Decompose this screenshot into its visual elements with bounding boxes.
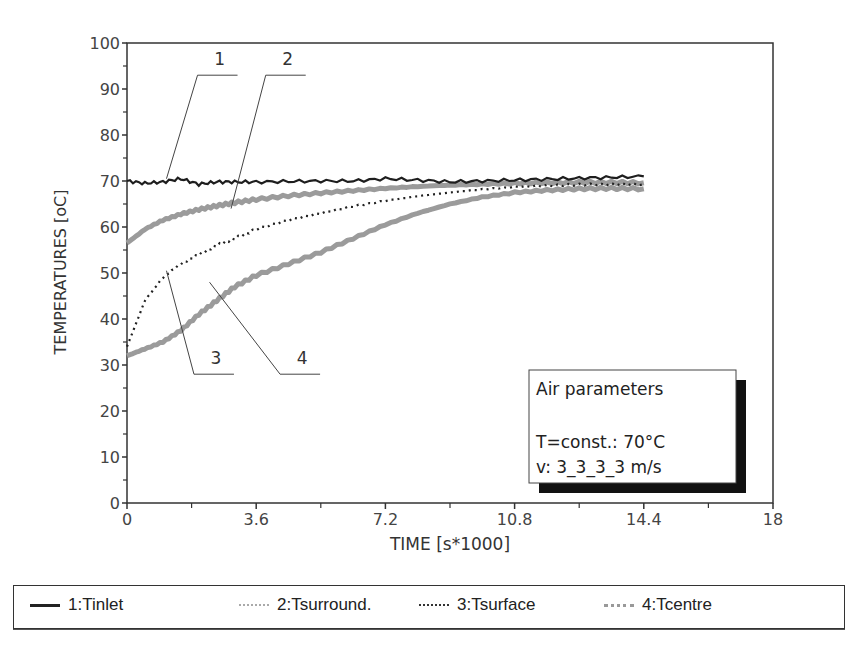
legend-swatch-gray-dotted — [239, 604, 269, 606]
legend-item-tcentre: 4:Tcentre — [604, 595, 712, 615]
x-tick-label: 10.8 — [497, 510, 533, 529]
x-axis-label: TIME [s*1000] — [389, 534, 510, 554]
legend-item-tinlet: 1:Tinlet — [30, 595, 123, 615]
info-box-title: Air parameters — [536, 379, 663, 399]
series-layer — [127, 175, 644, 355]
info-box-line: v: 3_3_3_3 m/s — [536, 457, 662, 478]
y-tick-label: 20 — [100, 402, 120, 421]
legend-swatch-gray-thick — [604, 604, 634, 607]
x-tick-label: 0 — [122, 510, 132, 529]
y-tick-label: 60 — [100, 218, 120, 237]
y-tick-label: 100 — [89, 34, 120, 53]
info-box-line: T=const.: 70°C — [535, 432, 665, 452]
y-tick-label: 0 — [110, 494, 120, 513]
y-tick-label: 30 — [100, 356, 120, 375]
annotation-label: 1 — [214, 49, 225, 69]
legend-label: 1:Tinlet — [68, 595, 123, 615]
x-tick-label: 18 — [763, 510, 783, 529]
y-tick-label: 70 — [100, 172, 120, 191]
legend-item-tsurround: 2:Tsurround. — [239, 595, 372, 615]
y-tick-label: 40 — [100, 310, 120, 329]
y-tick-label: 90 — [100, 80, 120, 99]
annotation-label: 3 — [211, 348, 222, 368]
air-parameters-box: Air parametersT=const.: 70°Cv: 3_3_3_3 m… — [529, 370, 746, 493]
y-axis-label: TEMPERATURES [oC] — [51, 189, 70, 355]
annotation-leader — [231, 75, 306, 208]
annotation-leader — [166, 75, 237, 179]
x-tick-label: 3.6 — [243, 510, 268, 529]
x-axis: 03.67.210.814.418 — [122, 503, 783, 529]
legend-label: 2:Tsurround. — [277, 595, 372, 615]
annotation-label: 2 — [282, 49, 293, 69]
y-tick-label: 10 — [100, 448, 120, 467]
chart-legend: 1:Tinlet 2:Tsurround. 3:Tsurface 4:Tcent… — [13, 585, 845, 629]
y-axis: 0102030405060708090100 — [89, 34, 127, 513]
annotation-label: 4 — [297, 348, 308, 368]
y-tick-label: 80 — [100, 126, 120, 145]
legend-swatch-dark-dotted — [419, 604, 449, 606]
legend-item-tsurface: 3:Tsurface — [419, 595, 535, 615]
legend-label: 4:Tcentre — [642, 595, 712, 615]
annotation-leader — [166, 271, 233, 375]
series-line-4 — [127, 187, 644, 356]
y-tick-label: 50 — [100, 264, 120, 283]
legend-label: 3:Tsurface — [457, 595, 535, 615]
x-tick-label: 7.2 — [373, 510, 398, 529]
x-tick-label: 14.4 — [626, 510, 662, 529]
temperature-chart: 0102030405060708090100 03.67.210.814.418… — [0, 0, 859, 580]
legend-swatch-solid — [30, 604, 60, 607]
